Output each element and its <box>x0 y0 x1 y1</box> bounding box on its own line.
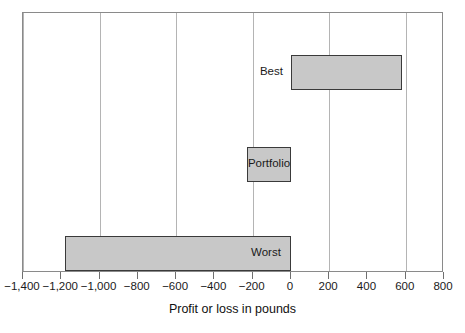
x-tick-label: −1,400 <box>4 281 40 293</box>
x-tick-label: −600 <box>162 281 188 293</box>
bar-label-portfolio: Portfolio <box>248 158 290 170</box>
bars-group: BestPortfolioWorst <box>23 13 442 271</box>
x-tick-label: −400 <box>200 281 226 293</box>
x-tick <box>405 272 406 279</box>
x-tick <box>137 272 138 279</box>
x-tick-label: 400 <box>357 281 376 293</box>
x-tick <box>328 272 329 279</box>
x-tick <box>99 272 100 279</box>
bar-best[interactable] <box>291 55 402 90</box>
x-tick-label: −200 <box>239 281 265 293</box>
x-tick-label: −1,200 <box>43 281 79 293</box>
x-tick <box>252 272 253 279</box>
x-tick <box>60 272 61 279</box>
bar-label-worst: Worst <box>251 247 290 259</box>
x-tick-label: 600 <box>395 281 414 293</box>
x-tick-label: −800 <box>124 281 150 293</box>
x-tick <box>22 272 23 279</box>
x-tick-label: −1,000 <box>81 281 117 293</box>
x-tick <box>443 272 444 279</box>
x-tick-label: 200 <box>319 281 338 293</box>
x-axis-title: Profit or loss in pounds <box>0 303 465 316</box>
bar-label-best: Best <box>260 66 283 78</box>
x-tick <box>175 272 176 279</box>
bar-portfolio[interactable]: Portfolio <box>247 147 291 182</box>
x-tick <box>290 272 291 279</box>
x-tick-label: 800 <box>433 281 452 293</box>
bar-worst[interactable]: Worst <box>65 236 291 271</box>
x-tick <box>366 272 367 279</box>
plot-area: BestPortfolioWorst <box>22 12 443 272</box>
x-tick-label: 0 <box>287 281 293 293</box>
x-tick <box>213 272 214 279</box>
bar-chart: BestPortfolioWorst Profit or loss in pou… <box>0 0 465 333</box>
